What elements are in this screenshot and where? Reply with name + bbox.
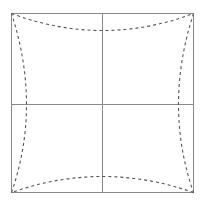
figure-canvas: [0, 0, 203, 202]
distortion-diagram: [0, 0, 203, 202]
